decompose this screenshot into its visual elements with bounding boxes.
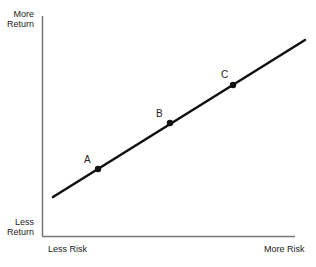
chart-plot: A B C (0, 0, 316, 267)
point-b-label: B (156, 108, 163, 119)
point-c (230, 82, 236, 88)
point-b (167, 120, 173, 126)
point-a-label: A (84, 154, 91, 165)
point-c-label: C (221, 69, 228, 80)
point-a (95, 166, 101, 172)
risk-return-line (53, 40, 305, 197)
